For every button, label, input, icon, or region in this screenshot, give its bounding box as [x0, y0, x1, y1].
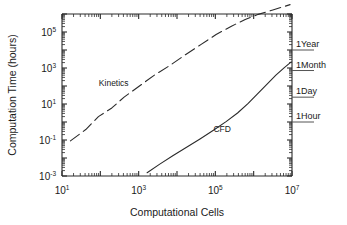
x-tick-label-2: 105	[208, 184, 223, 196]
x-tick-label-0: 101	[55, 184, 70, 196]
x-tick-label-1: 103	[131, 184, 146, 196]
plot-frame	[62, 14, 292, 176]
tick-marks	[62, 14, 292, 176]
y-tick-label-2: 101	[41, 98, 56, 110]
reference-label-2: 1Day	[296, 86, 318, 96]
y-tick-label-4: 105	[41, 26, 56, 38]
x-tick-label-3: 107	[285, 184, 300, 196]
figure-root: 1Year1Month1Day1Hour KineticsCFD 1011031…	[0, 0, 347, 225]
chart-canvas: 1Year1Month1Day1Hour KineticsCFD 1011031…	[0, 0, 347, 225]
curve-kinetics	[70, 5, 290, 141]
curve-labels: KineticsCFD	[99, 78, 231, 134]
reference-label-0: 1Year	[296, 39, 319, 49]
y-axis-title: Computation Time (hours)	[6, 34, 18, 155]
reference-label-1: 1Month	[296, 60, 326, 70]
x-axis-title: Computational Cells	[130, 206, 224, 218]
curve-cfd	[147, 62, 291, 173]
data-curves	[70, 5, 291, 173]
curve-label-kinetics: Kinetics	[99, 78, 129, 88]
reference-label-3: 1Hour	[296, 111, 321, 121]
y-tick-label-0: 10-3	[39, 170, 56, 182]
y-tick-label-1: 10-1	[39, 134, 56, 146]
tick-labels: 10110310510710-310-1101103105	[39, 26, 300, 197]
y-tick-label-3: 103	[41, 62, 56, 74]
curve-label-cfd: CFD	[213, 124, 230, 134]
reference-lines: 1Year1Month1Day1Hour	[292, 39, 326, 122]
